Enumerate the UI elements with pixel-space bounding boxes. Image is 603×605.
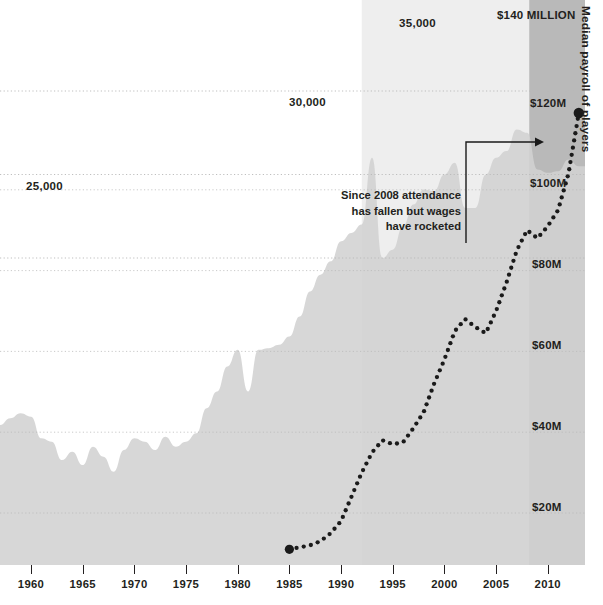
x-tick-mark-1960 [31, 565, 32, 574]
right-tick-120m: $120M [530, 97, 566, 109]
chart-svg [0, 0, 585, 565]
x-tick-label-1985: 1985 [276, 578, 302, 590]
right-tick-100m: $100M [530, 177, 566, 189]
x-tick-mark-1985 [289, 565, 290, 574]
annotation-line-1: Since 2008 attendance [329, 188, 461, 204]
right-tick-80m: $80M [532, 258, 562, 270]
x-axis: 1960196519701975198019851990199520002005… [0, 565, 603, 605]
right-tick-140-million: $140 MILLION [497, 9, 575, 21]
right-tick-20m: $20M [532, 501, 562, 513]
left-tick-35000: 35,000 [399, 17, 436, 29]
plot-area [0, 0, 585, 565]
x-tick-mark-1970 [134, 565, 135, 574]
left-tick-30000: 30,000 [289, 96, 326, 108]
right-tick-40m: $40M [532, 420, 562, 432]
x-tick-mark-2000 [444, 565, 445, 574]
x-tick-label-1995: 1995 [380, 578, 406, 590]
x-tick-label-1990: 1990 [328, 578, 354, 590]
x-tick-label-1960: 1960 [18, 578, 44, 590]
x-tick-label-2010: 2010 [535, 578, 561, 590]
x-tick-mark-2010 [548, 565, 549, 574]
x-tick-label-1975: 1975 [173, 578, 199, 590]
x-tick-mark-1975 [186, 565, 187, 574]
x-tick-label-2005: 2005 [483, 578, 509, 590]
right-tick-60m: $60M [532, 339, 562, 351]
x-tick-mark-1995 [393, 565, 394, 574]
x-tick-mark-2005 [496, 565, 497, 574]
chart-stage: Forbes, there are now 14 out of 24 regio… [0, 0, 603, 605]
x-tick-mark-1980 [238, 565, 239, 574]
right-axis-title: Median payroll of players [579, 6, 593, 153]
annotation-line-2: has fallen but wages [329, 204, 461, 220]
x-tick-mark-1965 [83, 565, 84, 574]
annotation-line-3: have rocketed [329, 219, 461, 235]
chart-annotation: Since 2008 attendance has fallen but wag… [329, 188, 461, 235]
x-tick-mark-1990 [341, 565, 342, 574]
x-tick-label-1970: 1970 [121, 578, 147, 590]
x-tick-label-2000: 2000 [431, 578, 457, 590]
left-tick-25000: 25,000 [26, 180, 63, 192]
x-tick-label-1965: 1965 [70, 578, 96, 590]
x-tick-label-1980: 1980 [225, 578, 251, 590]
